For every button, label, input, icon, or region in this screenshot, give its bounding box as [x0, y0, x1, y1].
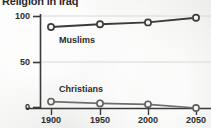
series-annotation-muslims: Muslims [59, 35, 95, 45]
x-axis-label-1900: 1900 [33, 115, 69, 125]
x-axis-label-1950: 1950 [82, 115, 118, 125]
data-point-christians-1900 [48, 99, 54, 105]
data-point-christians-1950 [97, 100, 103, 106]
x-axis-label-2050: 2050 [178, 115, 211, 125]
x-axis-label-2000: 2000 [130, 115, 166, 125]
y-axis-label-100: 100 [4, 11, 30, 21]
data-point-muslims-2000 [145, 19, 151, 25]
religion-line-chart: Religion in Iraq 100 50 0 1900 [0, 0, 211, 128]
data-point-christians-2050 [193, 105, 199, 111]
data-point-muslims-1950 [97, 21, 103, 27]
data-point-muslims-1900 [48, 24, 54, 30]
data-point-muslims-2050 [193, 15, 199, 21]
y-axis-label-0: 0 [4, 102, 30, 112]
series-line-christians [51, 102, 196, 108]
series-annotation-christians: Christians [59, 84, 103, 94]
series-line-muslims [51, 18, 196, 27]
y-axis-label-50: 50 [4, 57, 30, 67]
data-point-christians-2000 [145, 101, 151, 107]
chart-plot-area [0, 0, 211, 128]
